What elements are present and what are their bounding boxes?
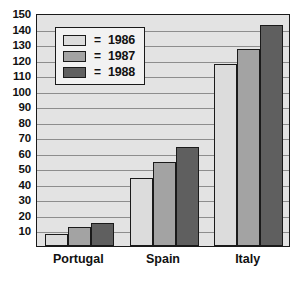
y-tick-label: 100 (12, 86, 31, 98)
legend-item-1986: =1986 (63, 32, 135, 48)
bar-portugal-1988 (91, 223, 114, 246)
bar-portugal-1987 (68, 227, 91, 246)
y-axis: 102030405060708090100110120130140150 (0, 0, 34, 282)
y-tick-label: 30 (19, 194, 31, 206)
y-tick-label: 60 (19, 148, 31, 160)
y-tick-label: 140 (12, 24, 31, 36)
y-tick-label: 90 (19, 101, 31, 113)
y-tick-label: 10 (19, 225, 31, 237)
bar-spain-1987 (153, 162, 176, 246)
x-axis: PortugalSpainItaly (0, 252, 304, 274)
legend-label-1987: 1987 (108, 49, 135, 63)
y-tick-label: 20 (19, 210, 31, 222)
y-tick-label: 120 (12, 55, 31, 67)
x-tick-label-spain: Spain (146, 252, 180, 266)
bar-italy-1987 (237, 49, 260, 246)
legend-swatch-1987 (63, 51, 86, 62)
legend-item-1988: =1988 (63, 64, 135, 80)
legend-equals-sign: = (94, 33, 101, 47)
legend-label-1988: 1988 (108, 65, 135, 79)
y-tick-label: 70 (19, 132, 31, 144)
legend-swatch-1986 (63, 35, 86, 46)
legend: =1986=1987=1988 (55, 27, 145, 85)
bar-spain-1988 (176, 147, 199, 246)
x-tick-label-portugal: Portugal (53, 252, 104, 266)
legend-label-1986: 1986 (108, 33, 135, 47)
y-tick-label: 40 (19, 179, 31, 191)
y-tick-label: 130 (12, 39, 31, 51)
legend-item-1987: =1987 (63, 48, 135, 64)
bar-chart-figure: 102030405060708090100110120130140150 Por… (0, 0, 304, 282)
bar-spain-1986 (130, 178, 153, 246)
bar-portugal-1986 (45, 234, 68, 246)
bar-italy-1986 (214, 64, 237, 246)
y-tick-label: 110 (13, 70, 31, 82)
y-tick-label: 80 (19, 117, 31, 129)
legend-equals-sign: = (94, 65, 101, 79)
y-tick-label: 150 (12, 8, 31, 20)
bar-italy-1988 (260, 25, 283, 246)
y-tick-label: 50 (19, 163, 31, 175)
legend-equals-sign: = (94, 49, 101, 63)
x-tick-label-italy: Italy (235, 252, 260, 266)
legend-swatch-1988 (63, 67, 86, 78)
